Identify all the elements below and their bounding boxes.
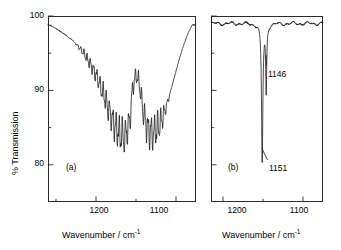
- panel-a-x-axis-title: Wavenumber / cm-1: [62, 228, 140, 240]
- panel-b-tag: (b): [228, 162, 238, 172]
- panel-b-xtick-label-1200: 1200: [219, 206, 255, 215]
- panel-a-x-axis-title-exponent: -1: [135, 228, 141, 235]
- panel-b-ticks: [211, 16, 303, 202]
- ytick-label-80: 80: [18, 159, 44, 168]
- peak-label-1151: 1151: [269, 163, 287, 173]
- panel-b-x-axis-title-exponent: -1: [295, 228, 301, 235]
- panel-b-trace: [211, 21, 323, 162]
- panel-b-xtick-label-1100: 1100: [281, 206, 317, 215]
- panel-a-plot: [48, 16, 196, 202]
- y-axis-title-text: % Transmission: [10, 111, 20, 175]
- panel-a: [48, 16, 196, 202]
- panel-b-plot: [211, 16, 323, 202]
- panel-a-xtick-label-1200: 1200: [81, 206, 117, 215]
- panel-a-ticks: [48, 16, 176, 202]
- ir-spectrum-figure: 100 90 80 1200 1100 (a) % Transmission W…: [0, 0, 341, 250]
- ytick-label-90: 90: [18, 85, 44, 94]
- panel-b-x-axis-title: Wavenumber / cm-1: [222, 228, 300, 240]
- panel-a-x-axis-title-text: Wavenumber / cm: [62, 230, 135, 240]
- peak-label-1146: 1146: [268, 69, 286, 79]
- panel-a-tag: (a): [66, 162, 76, 172]
- panel-b: [211, 16, 323, 202]
- y-axis-title: % Transmission: [10, 111, 20, 175]
- panel-a-xtick-label-1100: 1100: [141, 206, 177, 215]
- panel-a-trace: [48, 24, 196, 152]
- ytick-label-100: 100: [18, 11, 44, 20]
- panel-b-x-axis-title-text: Wavenumber / cm: [222, 230, 295, 240]
